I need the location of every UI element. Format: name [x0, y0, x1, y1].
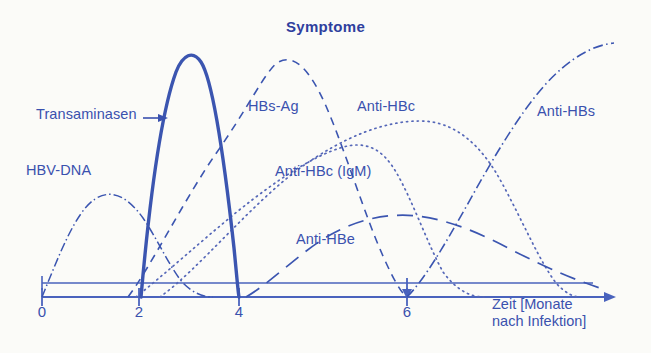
x-axis-title-line2: nach Infektion]: [492, 313, 586, 330]
x-tick-label-0: 0: [30, 303, 54, 320]
hepatitis-b-serology-chart: Symptome: [0, 0, 651, 353]
symptom-bar: [42, 276, 593, 290]
curve-anti-hbc: [160, 121, 580, 297]
x-tick-label-6: 6: [395, 303, 419, 320]
series-label-anti-hbc: Anti-HBc: [357, 98, 415, 114]
x-tick-label-2: 2: [127, 303, 151, 320]
x-axis-title: Zeit [Monate nach Infektion]: [492, 296, 586, 330]
series-label-anti-hbs: Anti-HBs: [537, 103, 595, 119]
x-tick-label-4: 4: [227, 303, 251, 320]
series-label-hbs-ag: HBs-Ag: [248, 98, 299, 114]
series-label-transaminasen: Transaminasen: [36, 106, 137, 122]
curve-anti-hbe: [246, 215, 600, 297]
hbsag-clearance-arrow: [402, 278, 412, 299]
series-label-anti-hbe: Anti-HBe: [296, 231, 355, 247]
curve-anti-hbs: [407, 43, 614, 297]
series-label-anti-hbc-igm: Anti-HBc (IgM): [275, 163, 371, 179]
curve-hbv-dna: [42, 194, 213, 297]
x-axis-title-line1: Zeit [Monate: [492, 296, 586, 313]
series-label-hbv-dna: HBV-DNA: [26, 162, 91, 178]
curve-transaminasen: [141, 55, 239, 297]
